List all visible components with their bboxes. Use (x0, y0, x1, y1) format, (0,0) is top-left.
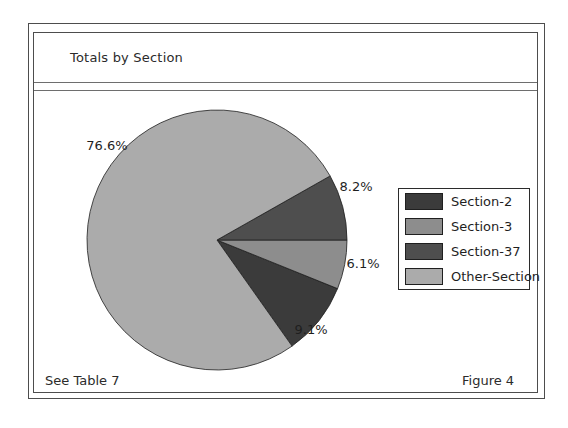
legend-label-section-37: Section-37 (451, 244, 521, 259)
legend-swatch-section-37 (405, 243, 443, 260)
figure-caption: Figure 4 (462, 373, 514, 388)
legend-item-section-2: Section-2 (399, 189, 529, 214)
pct-label-other-section: 76.6% (86, 138, 127, 153)
pct-label-section-2: 9.1% (294, 322, 327, 337)
legend-label-other-section: Other-Section (451, 269, 540, 284)
legend-swatch-section-2 (405, 193, 443, 210)
legend-item-section-37: Section-37 (399, 239, 529, 264)
legend-label-section-2: Section-2 (451, 194, 512, 209)
pct-label-section-37: 8.2% (339, 179, 372, 194)
legend-item-section-3: Section-3 (399, 214, 529, 239)
legend-swatch-other-section (405, 268, 443, 285)
legend-swatch-section-3 (405, 218, 443, 235)
legend-label-section-3: Section-3 (451, 219, 512, 234)
figure-page: Totals by Section 76.6% 8.2% 6.1% 9.1% S… (0, 0, 568, 428)
see-table-footnote: See Table 7 (45, 373, 119, 388)
legend: Section-2 Section-3 Section-37 Other-Sec… (398, 188, 530, 290)
legend-item-other-section: Other-Section (399, 264, 529, 289)
pct-label-section-3: 6.1% (346, 256, 379, 271)
